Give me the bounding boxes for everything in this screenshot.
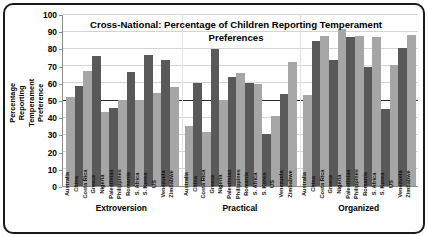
bar-organized-venezuela[interactable]: Venezuela — [398, 48, 407, 187]
y-tick-mark-60 — [59, 84, 62, 85]
bar-extroversion-palestinian[interactable]: Palestinian — [109, 108, 118, 186]
bar-organized-romania[interactable]: Romania — [364, 67, 373, 186]
group-label-practical: Practical — [181, 203, 300, 221]
bar-extroversion-s-africa[interactable]: S. Africa — [135, 100, 144, 186]
bar-practical-costa-rica[interactable]: Costa Rica — [202, 132, 211, 186]
chart-title: Cross-National: Percentage of Children R… — [71, 19, 401, 44]
bar-category-label: Greece — [90, 175, 96, 194]
bar-category-label: Australia — [301, 172, 307, 196]
bar-organized-china[interactable]: China — [312, 41, 321, 186]
bar-practical-australia[interactable]: Australia — [185, 126, 194, 186]
y-tick-mark-40 — [59, 118, 62, 119]
bar-organized-palestinian[interactable]: Palestinian — [346, 37, 355, 186]
bar-category-label: Zimbabwe — [405, 170, 411, 197]
bar-organized-nigeria[interactable]: Nigeria — [338, 29, 347, 186]
bar-extroversion-greece[interactable]: Greece — [92, 56, 101, 186]
bar-extroversion-venezuela[interactable]: Venezuela — [161, 60, 170, 186]
y-tick-mark-50 — [59, 101, 62, 102]
bar-organized-zimbabwe[interactable]: Zimbabwe — [407, 35, 416, 186]
y-tick-label-60: 60 — [31, 79, 57, 89]
bar-category-label: Venezuela — [397, 170, 403, 197]
bar-category-label: Greece — [209, 175, 215, 194]
bar-category-label: Romania — [125, 172, 131, 196]
bar-category-label: China — [310, 176, 316, 192]
bar-extroversion-china[interactable]: China — [75, 86, 84, 186]
bar-organized-greece[interactable]: Greece — [329, 60, 338, 186]
bar-category-label: Palestinian — [226, 169, 232, 199]
y-tick-mark-90 — [59, 32, 62, 33]
bar-category-label: Nigeria — [217, 175, 223, 194]
bar-category-label: China — [192, 176, 198, 192]
bar-category-label: S. Korea — [261, 173, 267, 196]
y-tick-label-90: 90 — [31, 27, 57, 37]
bar-practical-philippines[interactable]: Philippines — [236, 73, 245, 186]
bar-practical-greece[interactable]: Greece — [211, 49, 220, 186]
bar-category-label: Costa Rica — [82, 170, 88, 199]
y-tick-label-30: 30 — [31, 130, 57, 140]
y-tick-mark-20 — [59, 153, 62, 154]
bar-practical-china[interactable]: China — [193, 83, 202, 186]
y-tick-label-100: 100 — [31, 10, 57, 20]
y-tick-label-50: 50 — [31, 96, 57, 106]
bar-category-label: Costa Rica — [200, 170, 206, 199]
y-tick-mark-70 — [59, 67, 62, 68]
y-tick-label-80: 80 — [31, 44, 57, 54]
bar-category-label: S. Korea — [142, 173, 148, 196]
y-tick-label-20: 20 — [31, 148, 57, 158]
y-tick-label-10: 10 — [31, 165, 57, 175]
bar-category-label: S. Korea — [379, 173, 385, 196]
bar-extroversion-romania[interactable]: Romania — [127, 72, 136, 186]
bar-practical-romania[interactable]: Romania — [245, 83, 254, 186]
bar-category-label: Nigeria — [336, 175, 342, 194]
bar-category-label: Romania — [362, 172, 368, 196]
bar-organized-australia[interactable]: Australia — [303, 95, 312, 186]
bar-category-label: Nigeria — [99, 175, 105, 194]
bar-practical-venezuela[interactable]: Venezuela — [280, 94, 289, 186]
bar-extroversion-costa-rica[interactable]: Costa Rica — [83, 71, 92, 186]
category-axis-labels: ExtroversionPracticalOrganized — [62, 203, 418, 221]
bar-practical-us[interactable]: US — [271, 116, 280, 186]
bar-organized-us[interactable]: US — [390, 65, 399, 186]
bar-category-label: Australia — [64, 172, 70, 196]
chart-title-line-2: Preferences — [71, 32, 401, 45]
bar-extroversion-australia[interactable]: Australia — [66, 97, 75, 186]
y-tick-label-40: 40 — [31, 113, 57, 123]
bar-practical-nigeria[interactable]: Nigeria — [219, 100, 228, 186]
bar-practical-s-korea[interactable]: S. Korea — [262, 134, 271, 186]
y-tick-mark-80 — [59, 49, 62, 50]
y-tick-label-0: 0 — [31, 182, 57, 192]
bar-extroversion-nigeria[interactable]: Nigeria — [101, 112, 110, 186]
y-tick-mark-0 — [59, 187, 62, 188]
bar-category-label: Australia — [183, 172, 189, 196]
bar-organized-s-korea[interactable]: S. Korea — [381, 109, 390, 186]
y-tick-mark-30 — [59, 135, 62, 136]
bar-extroversion-zimbabwe[interactable]: Zimbabwe — [170, 87, 179, 186]
group-label-extroversion: Extroversion — [62, 203, 181, 221]
bar-category-label: S. Africa — [371, 173, 377, 196]
bar-practical-palestinian[interactable]: Palestinian — [228, 77, 237, 186]
y-tick-label-70: 70 — [31, 62, 57, 72]
bar-practical-s-africa[interactable]: S. Africa — [254, 84, 263, 186]
bar-extroversion-philippines[interactable]: Philippines — [118, 100, 127, 186]
bar-category-label: US — [151, 180, 157, 188]
y-tick-mark-10 — [59, 170, 62, 171]
bar-extroversion-us[interactable]: US — [153, 93, 162, 186]
bar-category-label: Venezuela — [160, 170, 166, 197]
bar-category-label: Palestinian — [108, 169, 114, 199]
bar-slot: Zimbabwe — [407, 15, 416, 186]
bar-category-label: Costa Rica — [319, 170, 325, 199]
bar-practical-zimbabwe[interactable]: Zimbabwe — [288, 62, 297, 186]
group-label-organized: Organized — [299, 203, 418, 221]
bar-category-label: Greece — [327, 175, 333, 194]
bar-category-label: China — [73, 176, 79, 192]
chart-title-line-1: Cross-National: Percentage of Children R… — [90, 19, 382, 30]
bar-category-label: Romania — [243, 172, 249, 196]
bar-category-label: Philippines — [353, 169, 359, 199]
bar-extroversion-s-korea[interactable]: S. Korea — [144, 55, 153, 186]
bar-organized-s-africa[interactable]: S. Africa — [372, 37, 381, 186]
y-tick-mark-100 — [59, 15, 62, 16]
bar-organized-costa-rica[interactable]: Costa Rica — [320, 36, 329, 186]
chart-frame: Percentage Reporting Temperament Prefere… — [3, 3, 425, 234]
bar-organized-philippines[interactable]: Philippines — [355, 36, 364, 186]
bar-category-label: Zimbabwe — [287, 170, 293, 197]
